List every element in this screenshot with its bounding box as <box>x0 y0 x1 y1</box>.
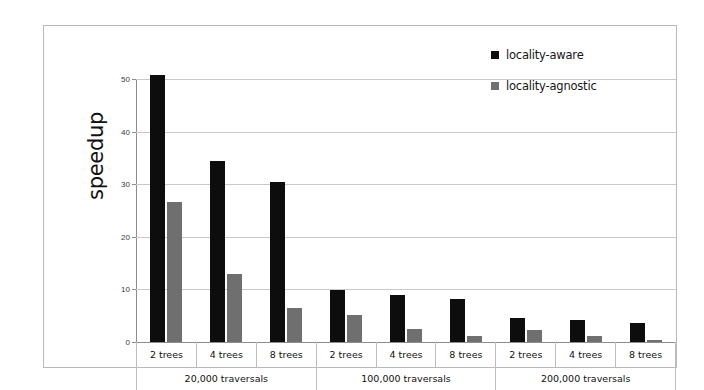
y-tick-label-30: 30 <box>121 180 130 189</box>
x-axis-category-row: 2 trees4 trees8 trees2 trees4 trees8 tre… <box>136 342 676 367</box>
y-tick-label-10: 10 <box>121 285 130 294</box>
legend-label-agnostic: locality-agnostic <box>506 79 597 93</box>
bar-locality-aware-0 <box>150 75 165 342</box>
y-tick-label-40: 40 <box>121 127 130 136</box>
y-tick-mark-50 <box>132 79 136 80</box>
bar-locality-aware-1 <box>210 161 225 342</box>
bar-locality-aware-3 <box>330 290 345 342</box>
x-group-label-1: 100,000 traversals <box>317 367 497 390</box>
bar-locality-agnostic-0 <box>167 202 182 342</box>
x-category-label-6: 2 trees <box>496 342 556 367</box>
x-axis-group-row: 20,000 traversals100,000 traversals200,0… <box>136 367 676 390</box>
legend-label-aware: locality-aware <box>506 48 584 62</box>
x-group-label-2: 200,000 traversals <box>496 367 676 390</box>
y-tick-mark-10 <box>132 289 136 290</box>
y-tick-mark-40 <box>132 132 136 133</box>
bar-locality-agnostic-6 <box>527 330 542 342</box>
y-tick-mark-20 <box>132 237 136 238</box>
y-axis-title: speedup <box>84 91 108 221</box>
bar-locality-aware-4 <box>390 295 405 342</box>
x-category-label-8: 8 trees <box>616 342 676 367</box>
x-category-label-1: 4 trees <box>197 342 257 367</box>
bar-locality-aware-5 <box>450 299 465 342</box>
x-category-label-3: 2 trees <box>317 342 377 367</box>
bar-locality-aware-7 <box>570 320 585 342</box>
bar-locality-aware-8 <box>630 323 645 342</box>
bar-locality-agnostic-2 <box>287 308 302 342</box>
chart-legend: locality-awarelocality-agnostic <box>491 48 597 110</box>
bar-locality-agnostic-1 <box>227 274 242 342</box>
y-tick-label-20: 20 <box>121 232 130 241</box>
gridline-40 <box>136 132 676 133</box>
chart-frame: speedup 01020304050 locality-awarelocali… <box>43 25 677 368</box>
x-group-label-0: 20,000 traversals <box>137 367 317 390</box>
x-category-label-2: 8 trees <box>257 342 317 367</box>
y-tick-label-50: 50 <box>121 75 130 84</box>
legend-swatch-icon-agnostic <box>491 82 499 90</box>
y-axis-line <box>136 79 137 342</box>
x-category-label-5: 8 trees <box>436 342 496 367</box>
bar-locality-aware-6 <box>510 318 525 342</box>
bar-locality-aware-2 <box>270 182 285 342</box>
legend-item-agnostic[interactable]: locality-agnostic <box>491 79 597 93</box>
x-category-label-7: 4 trees <box>556 342 616 367</box>
x-category-label-0: 2 trees <box>137 342 197 367</box>
x-axis-labels: 2 trees4 trees8 trees2 trees4 trees8 tre… <box>136 342 676 390</box>
y-tick-label-0: 0 <box>126 338 130 347</box>
bar-locality-agnostic-3 <box>347 315 362 342</box>
y-tick-mark-30 <box>132 184 136 185</box>
legend-item-aware[interactable]: locality-aware <box>491 48 597 62</box>
bar-locality-agnostic-4 <box>407 329 422 342</box>
legend-swatch-icon-aware <box>491 51 499 59</box>
x-category-label-4: 4 trees <box>377 342 437 367</box>
